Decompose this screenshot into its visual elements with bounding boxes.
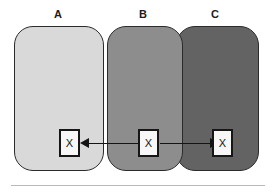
region-label-c: C bbox=[200, 7, 230, 21]
bottom-divider bbox=[11, 185, 265, 186]
arrow-b-to-a-head bbox=[80, 138, 89, 148]
region-label-b: B bbox=[128, 7, 158, 21]
marker-box-a: X bbox=[59, 129, 80, 157]
marker-box-c: X bbox=[212, 129, 233, 157]
diagram-canvas: A B C X X X bbox=[0, 0, 275, 194]
arrow-b-to-a-line bbox=[85, 143, 138, 144]
marker-box-b: X bbox=[138, 129, 159, 157]
region-label-a: A bbox=[43, 7, 73, 21]
arrow-b-to-c-line bbox=[160, 143, 212, 144]
